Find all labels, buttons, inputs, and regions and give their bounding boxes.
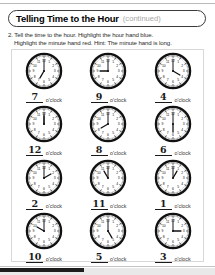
clock-face: 121234567891011 bbox=[89, 212, 127, 250]
clock-grid-frame: 1212345678910117o'clock1212345678910119o… bbox=[11, 49, 204, 262]
clock-numeral: 2 bbox=[181, 170, 183, 174]
clock-numeral: 2 bbox=[117, 224, 119, 228]
bottom-divider bbox=[0, 266, 215, 267]
worksheet-title-box: Telling Time to the Hour (continued) bbox=[8, 10, 206, 27]
clock-problem: 1212345678910112o'clock bbox=[12, 157, 76, 210]
clock-numeral: 10 bbox=[33, 117, 37, 121]
clock-numeral: 1 bbox=[49, 60, 51, 64]
clock-numeral: 9 bbox=[161, 69, 163, 73]
clock-numeral: 8 bbox=[163, 75, 165, 79]
clock-numeral: 3 bbox=[54, 69, 56, 73]
clock-numeral: 6 bbox=[43, 133, 45, 137]
clock-numeral: 4 bbox=[52, 181, 54, 185]
clock-numeral: 3 bbox=[118, 176, 120, 180]
answer-input[interactable]: 1 bbox=[155, 199, 172, 210]
clock-numeral: 11 bbox=[101, 113, 105, 117]
answer-unit-label: o'clock bbox=[110, 256, 126, 262]
instruction-line-2: Highlight the minute hand red. Hint: The… bbox=[8, 39, 208, 47]
clock-numeral: 7 bbox=[167, 132, 169, 136]
answer-row: 12o'clock bbox=[26, 144, 62, 156]
answer-unit-label: o'clock bbox=[110, 203, 126, 209]
clock-center-pin bbox=[107, 123, 109, 125]
clock-numeral: 7 bbox=[38, 132, 40, 136]
answer-row: 8o'clock bbox=[91, 144, 127, 156]
clock-numeral: 1 bbox=[113, 113, 115, 117]
clock-numeral: 9 bbox=[33, 122, 35, 126]
answer-input[interactable]: 11 bbox=[91, 199, 108, 210]
answer-input[interactable]: 9 bbox=[91, 92, 108, 103]
clock-face: 121234567891011 bbox=[154, 212, 192, 250]
answer-unit-label: o'clock bbox=[46, 256, 62, 262]
clock-center-pin bbox=[43, 177, 45, 179]
page-title-continued-label: (continued) bbox=[123, 14, 161, 23]
clock-numeral: 8 bbox=[34, 128, 36, 132]
clock-grid: 1212345678910117o'clock1212345678910119o… bbox=[12, 50, 205, 263]
instructions: 2. Tell the time to the hour. Highlight … bbox=[8, 31, 208, 47]
clock-center-pin bbox=[43, 70, 45, 72]
clock-numeral: 6 bbox=[108, 133, 110, 137]
clock-numeral: 6 bbox=[43, 186, 45, 190]
clock-center-pin bbox=[107, 230, 109, 232]
clock-numeral: 5 bbox=[49, 238, 51, 242]
clock-numeral: 6 bbox=[43, 240, 45, 244]
clock-center-pin bbox=[107, 70, 109, 72]
answer-input[interactable]: 4 bbox=[155, 92, 172, 103]
clock-center-pin bbox=[172, 123, 174, 125]
clock-numeral: 1 bbox=[177, 167, 179, 171]
clock-numeral: 9 bbox=[161, 229, 163, 233]
answer-unit-label: o'clock bbox=[110, 150, 126, 156]
clock-face: 121234567891011 bbox=[89, 159, 127, 197]
clock-numeral: 8 bbox=[98, 181, 100, 185]
clock-face: 121234567891011 bbox=[25, 159, 63, 197]
clock-numeral: 7 bbox=[102, 132, 104, 136]
clock-numeral: 10 bbox=[97, 224, 101, 228]
answer-input[interactable]: 8 bbox=[91, 145, 108, 156]
answer-input[interactable]: 3 bbox=[155, 252, 172, 263]
clock-problem: 12123456789101111o'clock bbox=[76, 157, 140, 210]
answer-unit-label: o'clock bbox=[46, 97, 62, 103]
answer-input[interactable]: 6 bbox=[155, 145, 172, 156]
clock-problem: 1212345678910117o'clock bbox=[12, 50, 76, 103]
answer-input[interactable]: 5 bbox=[91, 252, 108, 263]
clock-numeral: 5 bbox=[49, 132, 51, 136]
clock-numeral: 7 bbox=[167, 238, 169, 242]
clock-numeral: 11 bbox=[37, 220, 41, 224]
clock-numeral: 5 bbox=[177, 132, 179, 136]
clock-center-pin bbox=[172, 177, 174, 179]
clock-problem: 1212345678910114o'clock bbox=[141, 50, 205, 103]
clock-numeral: 4 bbox=[181, 234, 183, 238]
answer-input[interactable]: 7 bbox=[26, 92, 43, 103]
clock-numeral: 4 bbox=[117, 75, 119, 79]
clock-problem: 1212345678910111o'clock bbox=[141, 157, 205, 210]
clock-numeral: 3 bbox=[118, 69, 120, 73]
answer-row: 2o'clock bbox=[26, 198, 62, 210]
clock-numeral: 11 bbox=[166, 113, 170, 117]
clock-numeral: 7 bbox=[167, 78, 169, 82]
answer-input[interactable]: 10 bbox=[26, 252, 43, 263]
clock-numeral: 5 bbox=[49, 78, 51, 82]
clock-numeral: 1 bbox=[113, 220, 115, 224]
clock-numeral: 2 bbox=[181, 64, 183, 68]
clock-center-pin bbox=[172, 230, 174, 232]
clock-numeral: 7 bbox=[167, 185, 169, 189]
clock-face: 121234567891011 bbox=[89, 105, 127, 143]
clock-problem: 1212345678910115o'clock bbox=[76, 210, 140, 263]
clock-numeral: 2 bbox=[181, 117, 183, 121]
clock-numeral: 10 bbox=[97, 170, 101, 174]
page-title: Telling Time to the Hour bbox=[16, 13, 119, 24]
answer-row: 5o'clock bbox=[91, 251, 127, 263]
clock-numeral: 2 bbox=[117, 170, 119, 174]
answer-input[interactable]: 2 bbox=[26, 199, 43, 210]
clock-problem: 1212345678910113o'clock bbox=[141, 210, 205, 263]
clock-numeral: 8 bbox=[34, 234, 36, 238]
clock-numeral: 2 bbox=[117, 117, 119, 121]
clock-numeral: 11 bbox=[101, 167, 105, 171]
clock-numeral: 11 bbox=[37, 113, 41, 117]
answer-input[interactable]: 12 bbox=[26, 145, 43, 156]
clock-numeral: 7 bbox=[38, 238, 40, 242]
clock-numeral: 2 bbox=[117, 64, 119, 68]
answer-row: 10o'clock bbox=[26, 251, 62, 263]
answer-row: 6o'clock bbox=[155, 144, 191, 156]
clock-face: 121234567891011 bbox=[154, 159, 192, 197]
clock-numeral: 8 bbox=[34, 181, 36, 185]
